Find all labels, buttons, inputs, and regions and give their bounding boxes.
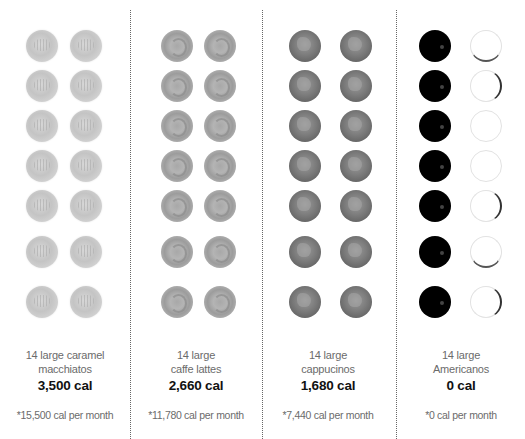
latte-cup-icon <box>161 190 193 222</box>
capp-cup-icon <box>340 286 372 318</box>
capp-cup-icon <box>289 150 321 182</box>
caramel-cup-icon <box>26 150 58 182</box>
monthly-calories: *0 cal per month <box>396 409 525 422</box>
calorie-total: 2,660 cal <box>131 377 261 394</box>
capp-cup-icon <box>289 286 321 318</box>
column-caffe-lattes: 14 large caffe lattes 2,660 cal *11,780 … <box>131 0 262 439</box>
column-cappucinos: 14 large cappucinos 1,680 cal *7,440 cal… <box>263 0 396 439</box>
capp-cup-icon <box>289 110 321 142</box>
caramel-cup-icon <box>70 70 102 102</box>
capp-cup-icon <box>340 30 372 62</box>
latte-cup-icon <box>161 286 193 318</box>
latte-cup-icon <box>161 110 193 142</box>
caramel-cup-icon <box>70 30 102 62</box>
caramel-cup-icon <box>26 236 58 268</box>
latte-cup-icon <box>204 286 236 318</box>
caramel-cup-icon <box>70 110 102 142</box>
latte-cup-icon <box>204 236 236 268</box>
drink-label-line1: 14 large caramel <box>26 349 105 361</box>
drink-label: 14 large caffe lattes 2,660 cal <box>131 348 261 394</box>
caramel-cup-icon <box>26 190 58 222</box>
capp-cup-icon <box>340 110 372 142</box>
monthly-calories: *15,500 cal per month <box>0 409 130 422</box>
empty-cup-icon <box>470 70 502 102</box>
empty-cup-icon <box>470 190 502 222</box>
latte-cup-icon <box>204 190 236 222</box>
latte-cup-icon <box>204 150 236 182</box>
monthly-calories: *7,440 cal per month <box>263 409 393 422</box>
latte-cup-icon <box>204 70 236 102</box>
caramel-cup-icon <box>26 30 58 62</box>
drink-label-line2: cappucinos <box>301 363 355 375</box>
latte-cup-icon <box>161 236 193 268</box>
caramel-cup-icon <box>26 70 58 102</box>
latte-cup-icon <box>161 30 193 62</box>
americano-cup-icon <box>419 286 451 318</box>
calorie-total: 0 cal <box>396 377 525 394</box>
latte-cup-icon <box>204 30 236 62</box>
caramel-cup-icon <box>70 150 102 182</box>
capp-cup-icon <box>340 236 372 268</box>
americano-cup-icon <box>419 110 451 142</box>
drink-label-line2: macchiatos <box>38 363 92 375</box>
empty-cup-icon <box>470 286 502 318</box>
drink-label-line1: 14 large <box>177 349 215 361</box>
capp-cup-icon <box>289 190 321 222</box>
caramel-cup-icon <box>26 286 58 318</box>
latte-cup-icon <box>161 70 193 102</box>
empty-cup-icon <box>470 110 502 142</box>
column-caramel-macchiatos: 14 large caramel macchiatos 3,500 cal *1… <box>0 0 130 439</box>
empty-cup-icon <box>470 236 502 268</box>
drink-label-line1: 14 large <box>442 349 480 361</box>
caramel-cup-icon <box>70 286 102 318</box>
caramel-cup-icon <box>70 236 102 268</box>
caramel-cup-icon <box>70 190 102 222</box>
column-americanos: 14 large Americanos 0 cal *0 cal per mon… <box>397 0 525 439</box>
empty-cup-icon <box>470 30 502 62</box>
calorie-total: 1,680 cal <box>263 377 393 394</box>
caramel-cup-icon <box>26 110 58 142</box>
americano-cup-icon <box>419 30 451 62</box>
capp-cup-icon <box>289 236 321 268</box>
americano-cup-icon <box>419 190 451 222</box>
americano-cup-icon <box>419 70 451 102</box>
capp-cup-icon <box>289 30 321 62</box>
monthly-calories: *11,780 cal per month <box>131 409 261 422</box>
empty-cup-icon <box>470 150 502 182</box>
latte-cup-icon <box>204 110 236 142</box>
capp-cup-icon <box>340 190 372 222</box>
drink-label: 14 large cappucinos 1,680 cal <box>263 348 393 394</box>
drink-label-line1: 14 large <box>309 349 347 361</box>
calorie-total: 3,500 cal <box>0 377 130 394</box>
drink-label-line2: Americanos <box>433 363 489 375</box>
americano-cup-icon <box>419 236 451 268</box>
drink-label: 14 large Americanos 0 cal <box>396 348 525 394</box>
capp-cup-icon <box>340 150 372 182</box>
capp-cup-icon <box>289 70 321 102</box>
drink-label-line2: caffe lattes <box>171 363 222 375</box>
latte-cup-icon <box>161 150 193 182</box>
capp-cup-icon <box>340 70 372 102</box>
americano-cup-icon <box>419 150 451 182</box>
drink-label: 14 large caramel macchiatos 3,500 cal <box>0 348 130 394</box>
